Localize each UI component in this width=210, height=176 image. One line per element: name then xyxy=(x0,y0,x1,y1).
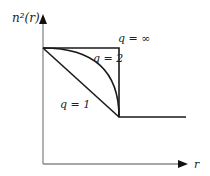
y-axis-arrow-icon xyxy=(39,14,47,24)
label-q-infinity: q = ∞ xyxy=(118,32,150,45)
x-axis-arrow-icon xyxy=(178,160,188,168)
label-q-1: q = 1 xyxy=(60,98,90,111)
refractive-index-profile-diagram: n²(r) r q = ∞ q = 2 q = 1 xyxy=(0,0,210,176)
y-axis-label: n²(r) xyxy=(12,11,40,25)
x-axis-label: r xyxy=(194,158,200,171)
label-q-2: q = 2 xyxy=(93,52,123,65)
